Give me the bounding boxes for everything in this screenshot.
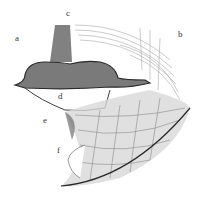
label-b: b [178,30,183,39]
label-d: d [58,92,63,101]
label-f: f [57,146,60,155]
label-c: c [66,9,70,18]
stem-c [50,25,72,62]
specimen-drawing [0,0,204,199]
label-e: e [43,116,47,125]
figure-canvas: a b c d e f [0,0,204,199]
label-a: a [15,34,19,43]
cap-body [15,61,150,88]
